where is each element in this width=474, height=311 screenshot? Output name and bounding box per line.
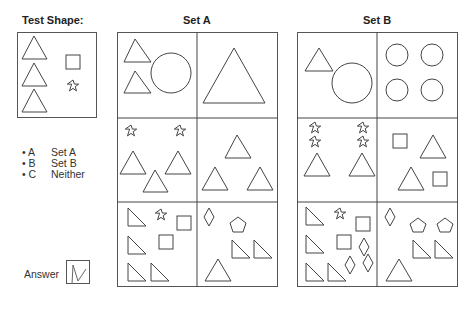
answer-label: Answer (24, 268, 59, 280)
set-b-title: Set B (363, 14, 391, 26)
set-a-title: Set A (183, 14, 211, 26)
set-a-grid (117, 32, 278, 287)
answer-checkbox[interactable] (66, 260, 90, 284)
check-mark-icon (67, 261, 91, 285)
test-shape-panel (17, 32, 97, 118)
option-c[interactable]: • CNeither (22, 169, 85, 180)
answer-options: • ASet A • BSet B • CNeither (22, 147, 85, 180)
test-shape-title: Test Shape: (22, 14, 84, 26)
set-b-grid (297, 32, 458, 287)
